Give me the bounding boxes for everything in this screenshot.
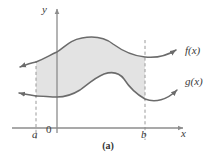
figure-area-between-curves: y x 0 a b f(x) g(x) (a) [0, 0, 216, 159]
curve-label-f: f(x) [185, 45, 200, 56]
curve-label-g: g(x) [185, 76, 203, 87]
tick-label-a: a [32, 129, 38, 140]
curve-f-left [20, 62, 36, 67]
tick-label-b: b [141, 129, 147, 140]
y-axis-label: y [42, 4, 47, 15]
figure-caption: (a) [0, 141, 216, 151]
origin-label: 0 [46, 124, 52, 135]
shaded-region [36, 37, 145, 99]
x-axis-label: x [181, 128, 186, 139]
curve-g-left [19, 93, 36, 96]
